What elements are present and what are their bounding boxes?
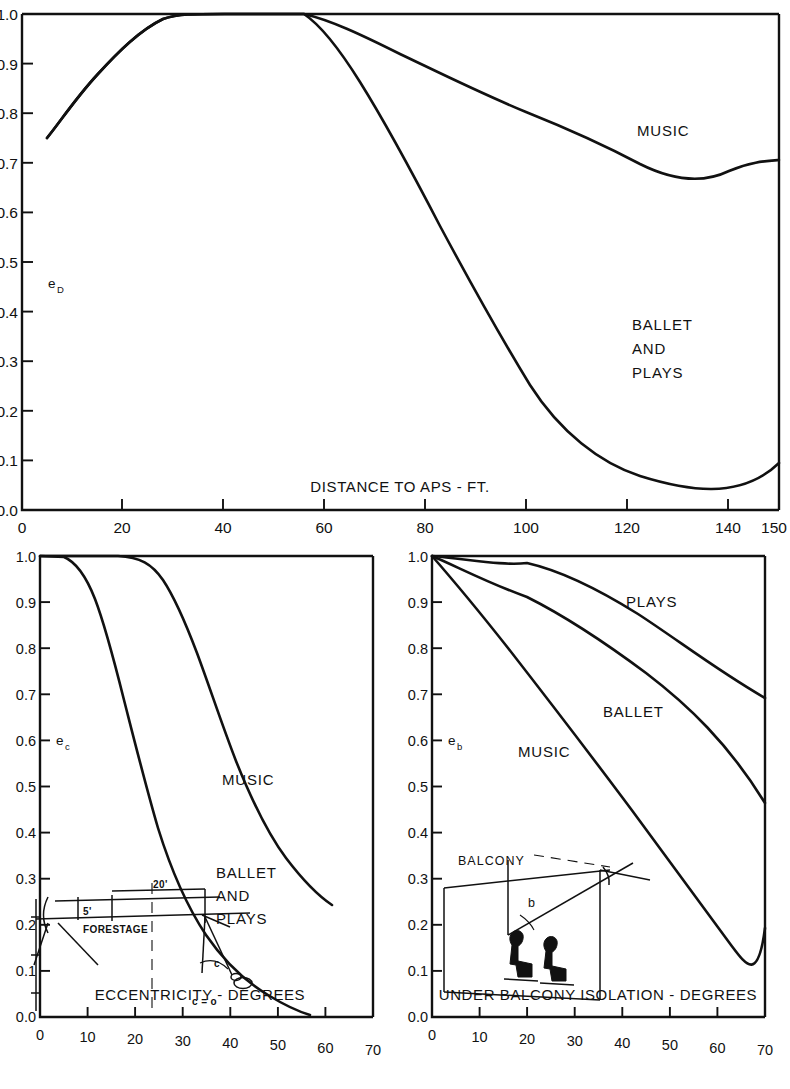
- y-axis-title-eccentricity: e c: [56, 733, 70, 752]
- svg-text:BALLET: BALLET: [216, 864, 277, 881]
- chart-distance-to-aps: 1.0 0.9 0.8 0.7 0.6 0.5 0.4 0.3 0.2 0.1 …: [0, 0, 790, 540]
- x-tick-label: 0: [36, 1027, 44, 1043]
- inset-forestage-label: FORESTAGE: [83, 924, 148, 935]
- x-tick-label: 60: [709, 1040, 725, 1056]
- y-tick-label: 0.0: [0, 502, 18, 519]
- y-tick-label: 1.0: [16, 549, 36, 565]
- y-tick-label: 0.5: [408, 779, 428, 795]
- chart-eccentricity: 1.0 0.9 0.8 0.7 0.6 0.5 0.4 0.3 0.2 0.1 …: [0, 545, 392, 1089]
- x-axis-labels-balcony: 0 10 20 30 40 50 60 70: [428, 1027, 773, 1058]
- svg-text:e: e: [56, 733, 64, 748]
- y-tick-label: 0.5: [0, 254, 18, 271]
- chart-under-balcony: 1.0 0.9 0.8 0.7 0.6 0.5 0.4 0.3 0.2 0.1 …: [398, 545, 790, 1089]
- svg-text:b: b: [457, 741, 462, 752]
- svg-text:e: e: [448, 733, 456, 748]
- y-tick-label: 0.9: [0, 56, 18, 73]
- svg-text:PLAYS: PLAYS: [632, 364, 683, 381]
- x-tick-label: 20: [519, 1031, 535, 1047]
- y-tick-label: 0.1: [16, 963, 36, 979]
- balcony-section-diagram: BALCONY b: [444, 854, 650, 1000]
- x-tick-label: 0: [18, 519, 27, 536]
- y-axis-labels-distance: 1.0 0.9 0.8 0.7 0.6 0.5 0.4 0.3 0.2 0.1 …: [0, 6, 18, 519]
- y-tick-label: 0.9: [408, 595, 428, 611]
- x-axis-ticks-balcony: [432, 1007, 765, 1017]
- x-axis-ticks-distance: [22, 499, 779, 510]
- y-axis-title-distance: e D: [48, 276, 64, 295]
- curve-music-eccentricity: [40, 556, 332, 905]
- x-axis-title-distance: DISTANCE TO APS - FT.: [310, 478, 489, 495]
- x-tick-label: 60: [317, 1040, 333, 1056]
- y-tick-label: 0.8: [408, 641, 428, 657]
- series-label-ballet-plays-eccentricity: BALLET AND PLAYS: [216, 864, 277, 927]
- y-tick-label: 0.7: [408, 687, 428, 703]
- x-tick-label: 50: [270, 1037, 286, 1053]
- svg-text:BALLET: BALLET: [632, 316, 693, 333]
- x-tick-label: 70: [757, 1042, 773, 1058]
- inset-angle-label: b: [528, 896, 536, 910]
- y-tick-label: 0.6: [16, 733, 36, 749]
- x-tick-label: 0: [428, 1027, 436, 1043]
- y-tick-label: 0.8: [0, 105, 18, 122]
- y-tick-label: 0.6: [0, 204, 18, 221]
- x-tick-label: 140: [715, 519, 741, 536]
- plot-frame-distance: [22, 14, 779, 510]
- x-tick-label: 150: [761, 519, 787, 536]
- x-tick-label: 80: [416, 519, 434, 536]
- y-axis-labels-eccentricity: 1.0 0.9 0.8 0.7 0.6 0.5 0.4 0.3 0.2 0.1 …: [16, 549, 36, 1025]
- y-tick-label: 0.2: [16, 917, 36, 933]
- y-tick-label: 1.0: [408, 549, 428, 565]
- series-label-plays-balcony: PLAYS: [626, 593, 677, 610]
- x-tick-label: 40: [614, 1035, 630, 1051]
- svg-text:D: D: [57, 284, 64, 295]
- x-tick-label: 20: [127, 1031, 143, 1047]
- x-tick-label: 100: [513, 519, 539, 536]
- y-tick-label: 0.3: [0, 353, 18, 370]
- inset-depth-label: 5': [83, 906, 92, 917]
- y-tick-label: 0.3: [16, 871, 36, 887]
- inset-zero-label: c = o: [192, 996, 217, 1007]
- x-tick-label: 40: [214, 519, 232, 536]
- y-tick-label: 0.4: [0, 304, 18, 321]
- inset-width-label: 20': [153, 879, 168, 890]
- y-axis-ticks-distance: [22, 14, 33, 510]
- curve-music-distance: [47, 14, 779, 179]
- inset-balcony-title: BALCONY: [458, 854, 525, 868]
- series-label-music-distance: MUSIC: [637, 122, 689, 139]
- plot-frame-eccentricity: [40, 556, 373, 1017]
- x-axis-ticks-eccentricity: [40, 1007, 373, 1017]
- inset-angle-label: c: [214, 958, 220, 969]
- y-tick-label: 1.0: [0, 6, 18, 23]
- x-tick-label: 30: [567, 1033, 583, 1049]
- y-axis-title-balcony: e b: [448, 733, 462, 752]
- svg-text:e: e: [48, 276, 56, 291]
- svg-text:AND: AND: [216, 887, 250, 904]
- x-tick-label: 70: [365, 1042, 381, 1058]
- x-tick-label: 30: [175, 1033, 191, 1049]
- x-axis-labels-distance: 0 20 40 60 80 100 120 140 150: [18, 519, 788, 536]
- y-tick-label: 0.2: [408, 917, 428, 933]
- svg-text:c: c: [65, 741, 70, 752]
- y-tick-label: 0.0: [16, 1009, 36, 1025]
- y-tick-label: 0.2: [0, 403, 18, 420]
- x-tick-label: 10: [80, 1029, 96, 1045]
- y-tick-label: 0.0: [408, 1009, 428, 1025]
- y-tick-label: 0.1: [408, 963, 428, 979]
- y-tick-label: 0.7: [16, 687, 36, 703]
- x-axis-labels-eccentricity: 0 10 20 30 40 50 60 70: [36, 1027, 381, 1058]
- series-label-ballet-plays-distance: BALLET AND PLAYS: [632, 316, 693, 381]
- y-tick-label: 0.6: [408, 733, 428, 749]
- x-tick-label: 60: [315, 519, 333, 536]
- series-label-ballet-balcony: BALLET: [603, 703, 664, 720]
- y-tick-label: 0.4: [408, 825, 428, 841]
- x-tick-label: 40: [222, 1035, 238, 1051]
- plot-frame-balcony: [432, 556, 765, 1017]
- series-label-music-eccentricity: MUSIC: [222, 771, 274, 788]
- y-tick-label: 0.9: [16, 595, 36, 611]
- y-tick-label: 0.1: [0, 452, 18, 469]
- svg-text:AND: AND: [632, 340, 666, 357]
- y-tick-label: 0.5: [16, 779, 36, 795]
- x-tick-label: 20: [113, 519, 131, 536]
- curve-music-balcony: [432, 556, 765, 965]
- y-axis-labels-balcony: 1.0 0.9 0.8 0.7 0.6 0.5 0.4 0.3 0.2 0.1 …: [408, 549, 428, 1025]
- y-tick-label: 0.4: [16, 825, 36, 841]
